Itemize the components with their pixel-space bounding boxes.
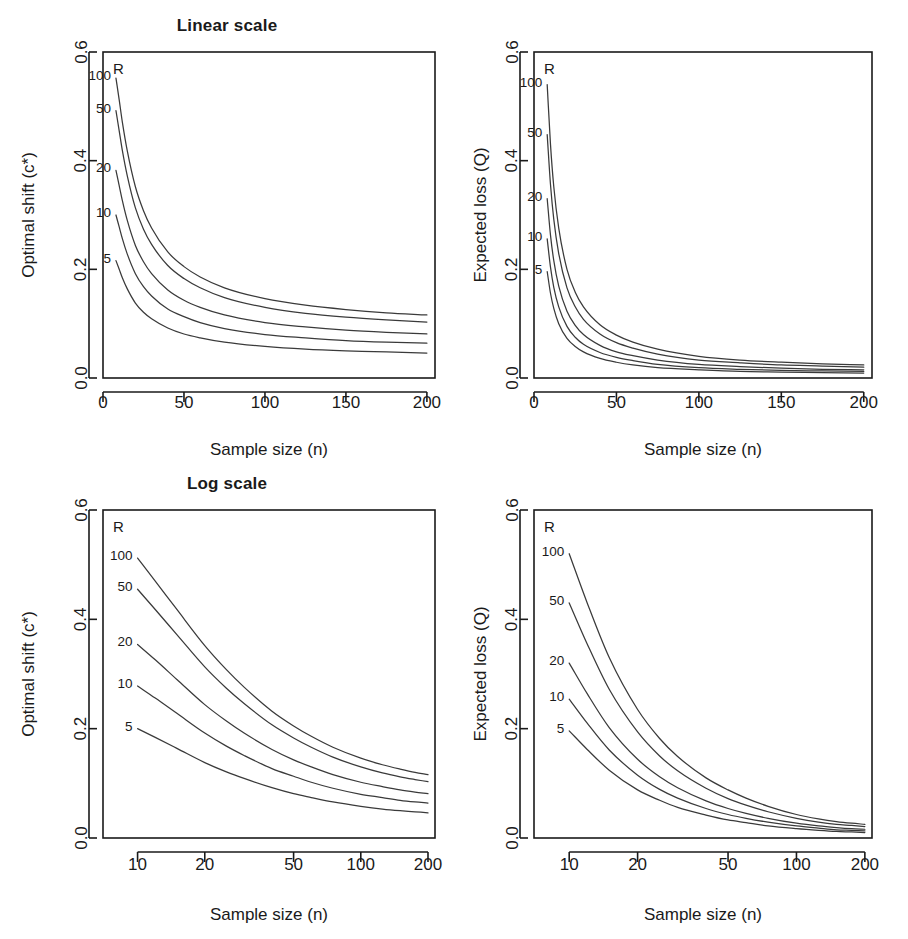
y-tick-label: 0.4 bbox=[503, 149, 522, 173]
plot-box bbox=[534, 52, 872, 378]
panel-top-right: 0.00.20.40.6050100150200Sample size (n)E… bbox=[454, 8, 908, 468]
legend-title-r: R bbox=[544, 518, 555, 535]
x-tick-label: 200 bbox=[850, 393, 878, 412]
x-tick-label: 10 bbox=[560, 855, 579, 874]
x-tick-label: 200 bbox=[413, 393, 441, 412]
series-curve-r-5 bbox=[547, 272, 864, 374]
series-curve-r-50 bbox=[138, 589, 428, 781]
panel-title-log-scale: Log scale bbox=[0, 474, 454, 494]
y-tick-label: 0.0 bbox=[503, 366, 522, 390]
x-axis-title: Sample size (n) bbox=[644, 905, 762, 924]
y-tick-label: 0.6 bbox=[503, 498, 522, 522]
series-curve-r-10 bbox=[138, 686, 428, 803]
series-label-r-50: 50 bbox=[549, 593, 564, 608]
x-tick-label: 200 bbox=[851, 855, 879, 874]
x-tick-label: 50 bbox=[719, 855, 738, 874]
x-axis-title: Sample size (n) bbox=[210, 905, 328, 924]
plot-bottom-right: 0.00.20.40.6102050100200Sample size (n)E… bbox=[454, 468, 908, 939]
x-tick-label: 50 bbox=[175, 393, 194, 412]
series-curve-r-5 bbox=[138, 729, 428, 813]
series-curve-r-20 bbox=[569, 663, 865, 829]
series-label-r-50: 50 bbox=[118, 579, 133, 594]
series-label-r-50: 50 bbox=[527, 125, 542, 140]
series-label-r-100: 100 bbox=[542, 544, 565, 559]
figure-root: Linear scale 0.00.20.40.6050100150200Sam… bbox=[0, 0, 908, 939]
x-tick-label: 20 bbox=[628, 855, 647, 874]
plot-box bbox=[103, 52, 435, 378]
series-label-r-100: 100 bbox=[520, 75, 543, 90]
panel-top-left: Linear scale 0.00.20.40.6050100150200Sam… bbox=[0, 8, 454, 468]
y-axis-title: Expected loss (Q) bbox=[471, 147, 490, 282]
x-tick-label: 100 bbox=[347, 855, 375, 874]
x-tick-label: 100 bbox=[782, 855, 810, 874]
y-tick-label: 0.4 bbox=[503, 608, 522, 632]
y-tick-label: 0.6 bbox=[503, 40, 522, 64]
series-curve-r-100 bbox=[116, 78, 427, 315]
y-axis-title: Optimal shift (c*) bbox=[19, 611, 38, 737]
plot-box bbox=[103, 510, 435, 838]
y-tick-label: 0.6 bbox=[72, 40, 91, 64]
plot-top-left: 0.00.20.40.6050100150200Sample size (n)O… bbox=[0, 8, 454, 468]
x-tick-label: 20 bbox=[195, 855, 214, 874]
legend-title-r: R bbox=[544, 60, 555, 77]
legend-title-r: R bbox=[113, 518, 124, 535]
series-label-r-10: 10 bbox=[118, 676, 133, 691]
series-label-r-5: 5 bbox=[535, 262, 543, 277]
series-label-r-5: 5 bbox=[125, 719, 133, 734]
y-tick-label: 0.2 bbox=[503, 717, 522, 741]
legend-title-r: R bbox=[113, 60, 124, 77]
x-tick-label: 10 bbox=[128, 855, 147, 874]
x-tick-label: 0 bbox=[529, 393, 538, 412]
plot-top-right: 0.00.20.40.6050100150200Sample size (n)E… bbox=[454, 8, 908, 468]
series-label-r-50: 50 bbox=[96, 101, 111, 116]
x-tick-label: 50 bbox=[284, 855, 303, 874]
series-curve-r-20 bbox=[547, 199, 864, 370]
x-tick-label: 150 bbox=[332, 393, 360, 412]
series-curve-r-100 bbox=[569, 554, 865, 825]
series-label-r-20: 20 bbox=[118, 634, 133, 649]
y-tick-label: 0.6 bbox=[72, 498, 91, 522]
panel-bottom-left: Log scale 0.00.20.40.6102050100200Sample… bbox=[0, 468, 454, 939]
x-axis-title: Sample size (n) bbox=[210, 440, 328, 459]
y-axis-title: Expected loss (Q) bbox=[471, 606, 490, 741]
y-tick-label: 0.0 bbox=[72, 826, 91, 850]
x-tick-label: 50 bbox=[607, 393, 626, 412]
series-label-r-20: 20 bbox=[527, 189, 542, 204]
series-label-r-10: 10 bbox=[527, 229, 542, 244]
series-label-r-100: 100 bbox=[110, 548, 133, 563]
y-tick-label: 0.0 bbox=[72, 366, 91, 390]
series-label-r-20: 20 bbox=[96, 160, 111, 175]
x-tick-label: 100 bbox=[685, 393, 713, 412]
y-tick-label: 0.2 bbox=[72, 717, 91, 741]
series-curve-r-50 bbox=[116, 111, 427, 322]
series-curve-r-50 bbox=[547, 135, 864, 368]
series-curve-r-5 bbox=[569, 731, 865, 833]
y-tick-label: 0.2 bbox=[503, 258, 522, 282]
series-curve-r-100 bbox=[138, 558, 428, 774]
series-label-r-10: 10 bbox=[96, 205, 111, 220]
y-tick-label: 0.4 bbox=[72, 608, 91, 632]
series-curve-r-20 bbox=[116, 170, 427, 334]
panel-bottom-right: 0.00.20.40.6102050100200Sample size (n)E… bbox=[454, 468, 908, 939]
series-curve-r-100 bbox=[547, 85, 864, 365]
x-tick-label: 0 bbox=[98, 393, 107, 412]
y-tick-label: 0.2 bbox=[72, 258, 91, 282]
x-tick-label: 200 bbox=[414, 855, 442, 874]
x-tick-label: 100 bbox=[251, 393, 279, 412]
series-label-r-5: 5 bbox=[557, 721, 565, 736]
plot-box bbox=[534, 510, 872, 838]
series-curve-r-10 bbox=[569, 699, 865, 831]
x-axis-title: Sample size (n) bbox=[644, 440, 762, 459]
series-curve-r-50 bbox=[569, 603, 865, 827]
y-tick-label: 0.0 bbox=[503, 826, 522, 850]
series-label-r-20: 20 bbox=[549, 653, 564, 668]
panel-title-linear-scale: Linear scale bbox=[0, 16, 454, 36]
series-label-r-5: 5 bbox=[103, 251, 111, 266]
y-tick-label: 0.4 bbox=[72, 149, 91, 173]
plot-bottom-left: 0.00.20.40.6102050100200Sample size (n)O… bbox=[0, 468, 454, 939]
y-axis-title: Optimal shift (c*) bbox=[19, 152, 38, 278]
series-label-r-10: 10 bbox=[549, 689, 564, 704]
x-tick-label: 150 bbox=[767, 393, 795, 412]
series-curve-r-10 bbox=[547, 239, 864, 372]
series-label-r-100: 100 bbox=[88, 68, 111, 83]
